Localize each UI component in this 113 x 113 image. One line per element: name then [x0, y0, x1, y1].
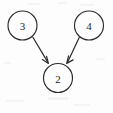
node-3-label: 3 — [20, 20, 26, 32]
edge-3-to-2-line — [33, 37, 48, 62]
edge-3-to-2[interactable] — [33, 37, 49, 63]
node-group: 3 4 2 — [8, 11, 104, 93]
node-2-label: 2 — [55, 73, 61, 85]
node-3[interactable]: 3 — [8, 11, 37, 40]
edge-4-to-2[interactable] — [67, 38, 80, 64]
edge-group — [33, 37, 79, 63]
directed-graph-figure: 3 4 2 — [0, 0, 113, 113]
node-2[interactable]: 2 — [44, 64, 73, 93]
node-4-label: 4 — [86, 20, 92, 32]
node-4[interactable]: 4 — [75, 11, 104, 40]
graph-canvas: 3 4 2 — [0, 0, 113, 113]
edge-4-to-2-line — [68, 38, 80, 62]
